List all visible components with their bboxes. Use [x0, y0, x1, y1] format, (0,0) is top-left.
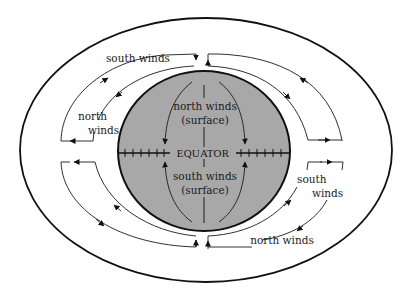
south-surface-label-line1: south winds [173, 170, 237, 182]
top-left-wind-label: south winds [106, 52, 170, 64]
north-surface-label-line2: (surface) [181, 114, 229, 126]
left-wind-label-line1: north [78, 110, 107, 122]
equator-label: EQUATOR [177, 147, 230, 159]
left-wind-label-line2: winds [88, 124, 119, 136]
south-surface-label-line2: (surface) [181, 184, 229, 196]
bottom-right-wind-label: north winds [250, 234, 314, 246]
right-wind-label-line1: south [297, 173, 327, 185]
north-surface-label-line1: north winds [173, 100, 237, 112]
right-wind-label-line2: winds [312, 187, 343, 199]
wind-circulation-diagram: EQUATOR north winds (surface) south wind… [0, 0, 409, 296]
